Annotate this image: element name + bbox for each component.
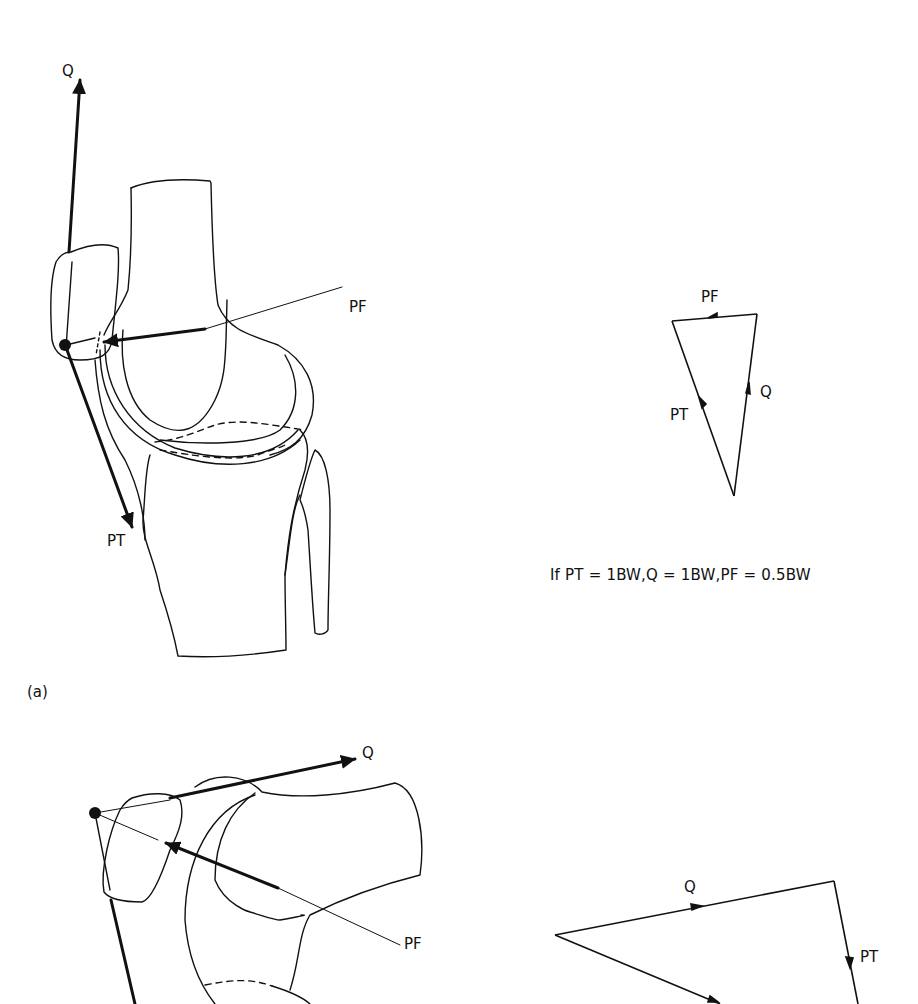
label-pf-triangle-a: PF bbox=[701, 290, 719, 305]
panel-a-knee-diagram bbox=[51, 80, 342, 657]
label-q-knee-b: Q bbox=[362, 746, 374, 761]
force-equation-caption: If PT = 1BW,Q = 1BW,PF = 0.5BW bbox=[550, 566, 811, 584]
label-pt-triangle-a: PT bbox=[670, 408, 688, 423]
force-arrow-pt-b bbox=[111, 900, 135, 1004]
force-arrow-pf bbox=[104, 329, 205, 342]
panel-label-a: (a) bbox=[27, 683, 48, 701]
figure-canvas bbox=[0, 0, 918, 1004]
panel-a-force-triangle bbox=[672, 313, 757, 496]
label-q-knee-a: Q bbox=[62, 64, 74, 79]
femur-outline bbox=[131, 180, 313, 455]
panel-b-force-triangle bbox=[555, 881, 858, 1004]
patella-pivot-dot-b bbox=[89, 807, 101, 819]
panel-b-knee-diagram bbox=[89, 759, 422, 1004]
patella-pivot-dot bbox=[59, 339, 71, 351]
force-arrow-q bbox=[69, 80, 80, 252]
label-q-triangle-b: Q bbox=[684, 880, 696, 895]
force-arrow-pf-b bbox=[166, 843, 278, 888]
label-q-triangle-a: Q bbox=[760, 385, 772, 400]
fibula-outline bbox=[300, 450, 330, 634]
force-arrow-pt bbox=[67, 350, 132, 527]
label-pf-knee-b: PF bbox=[404, 937, 422, 952]
label-pf-knee-a: PF bbox=[349, 300, 367, 315]
label-pt-triangle-b: PT bbox=[860, 950, 878, 965]
label-pt-knee-a: PT bbox=[107, 534, 125, 549]
